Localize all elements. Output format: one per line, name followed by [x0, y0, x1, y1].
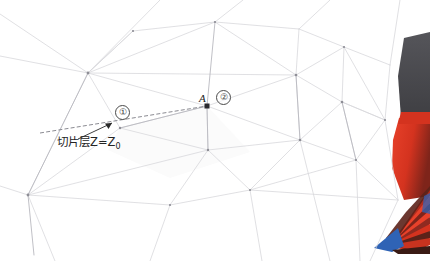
slice-plane-caption-subscript: 0: [115, 142, 120, 151]
model-red-body: [392, 118, 430, 200]
slice-plane-caption-text: 切片层Z=Z: [57, 135, 115, 149]
point-a-label: A: [199, 93, 206, 104]
model-red-sliver: [398, 112, 430, 124]
model-dark-band: [398, 32, 430, 120]
model-render-fragment: [374, 32, 430, 254]
region-marker-1: ①: [115, 105, 130, 120]
slice-plane-caption: 切片层Z=Z0: [57, 137, 121, 151]
slice-layer-figure: A ① ② 切片层Z=Z0: [0, 0, 430, 261]
mesh-wireframe-canvas: [0, 0, 430, 261]
region-marker-2: ②: [216, 90, 231, 105]
point-a-marker: [205, 104, 210, 109]
